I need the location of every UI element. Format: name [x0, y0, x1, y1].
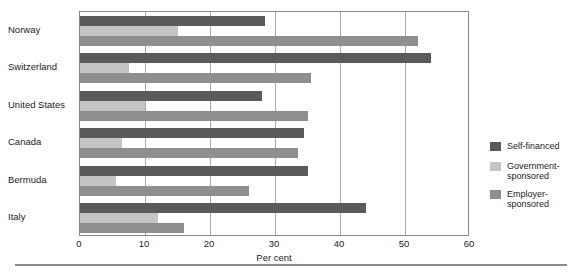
y-axis-tick-label: Bermuda	[0, 175, 63, 185]
x-axis-tick-label: 60	[464, 238, 475, 249]
y-axis-tick-label: Norway	[0, 25, 63, 35]
legend-item-label: Government-sponsored	[507, 161, 582, 181]
x-axis-title: Per cent	[79, 252, 469, 263]
legend-swatch-icon	[490, 142, 501, 151]
plot-area	[79, 11, 469, 236]
bar	[80, 166, 308, 176]
bar	[80, 213, 158, 223]
chart-legend: Self-financedGovernment-sponsoredEmploye…	[490, 141, 582, 217]
legend-swatch-icon	[490, 162, 501, 171]
chart-figure: NorwaySwitzerlandUnited StatesCanadaBerm…	[0, 0, 582, 274]
bar	[80, 53, 431, 63]
y-axis-tick-label: United States	[0, 100, 63, 110]
y-axis-labels: NorwaySwitzerlandUnited StatesCanadaBerm…	[0, 11, 72, 236]
y-axis-tick-label: Italy	[0, 212, 63, 222]
clipped-header-residue	[74, 0, 374, 4]
bar	[80, 26, 178, 36]
bar	[80, 148, 298, 158]
legend-item[interactable]: Government-sponsored	[490, 161, 582, 181]
bar	[80, 91, 262, 101]
bottom-divider	[15, 264, 567, 266]
bar	[80, 186, 249, 196]
bar	[80, 138, 122, 148]
bar	[80, 63, 129, 73]
bar	[80, 36, 418, 46]
y-axis-tick-label: Canada	[0, 137, 63, 147]
legend-item-label: Employer-sponsored	[507, 189, 582, 209]
x-axis-tick-label: 20	[204, 238, 215, 249]
x-axis-tick-label: 50	[399, 238, 410, 249]
bar	[80, 223, 184, 233]
bar	[80, 176, 116, 186]
bar	[80, 111, 308, 121]
bar	[80, 203, 366, 213]
legend-item[interactable]: Self-financed	[490, 141, 582, 153]
x-axis-ticks: 0102030405060	[79, 238, 469, 252]
x-axis-tick-label: 10	[139, 238, 150, 249]
x-axis-tick-label: 40	[334, 238, 345, 249]
y-axis-tick-label: Switzerland	[0, 62, 63, 72]
legend-item-label: Self-financed	[507, 141, 582, 151]
bar	[80, 16, 265, 26]
bar	[80, 128, 304, 138]
legend-item[interactable]: Employer-sponsored	[490, 189, 582, 209]
bar	[80, 73, 311, 83]
legend-swatch-icon	[490, 190, 501, 199]
bar	[80, 101, 145, 111]
x-axis-tick-label: 30	[269, 238, 280, 249]
x-axis-tick-label: 0	[76, 238, 81, 249]
